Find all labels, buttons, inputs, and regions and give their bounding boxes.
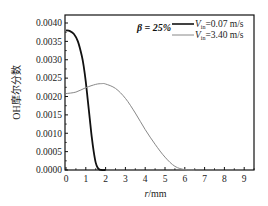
series-line-2 <box>66 83 195 170</box>
x-tick-label: 7 <box>202 174 207 184</box>
y-tick-label: 0.0015 <box>36 110 62 120</box>
x-tick-label: 9 <box>242 174 247 184</box>
x-tick-label: 1 <box>83 174 88 184</box>
x-tick-label: 5 <box>163 174 168 184</box>
y-axis-title: OH摩尔分数 <box>10 65 22 119</box>
chart: 01234567890.00000.00050.00100.00150.0020… <box>0 0 268 206</box>
plot-area: 01234567890.00000.00050.00100.00150.0020… <box>10 15 254 199</box>
x-axis-title: r/mm <box>144 188 166 199</box>
legend-label: Vin=3.40 m/s <box>195 30 244 41</box>
y-tick-label: 0.0025 <box>36 73 62 83</box>
series-line-1 <box>66 30 106 170</box>
x-tick-label: 4 <box>143 174 148 184</box>
y-tick-label: 0.0020 <box>36 92 62 102</box>
x-tick-label: 3 <box>123 174 128 184</box>
x-tick-label: 2 <box>103 174 108 184</box>
legend-label: Vin=0.07 m/s <box>195 19 244 30</box>
y-tick-label: 0.0040 <box>36 18 62 28</box>
y-tick-label: 0.0035 <box>36 37 62 47</box>
y-tick-label: 0.0030 <box>36 55 62 65</box>
x-tick-label: 8 <box>222 174 227 184</box>
beta-annotation: β = 25% <box>136 22 171 33</box>
x-tick-label: 6 <box>182 174 187 184</box>
x-tick-label: 0 <box>64 174 69 184</box>
y-tick-label: 0.0010 <box>36 129 62 139</box>
y-tick-label: 0.0005 <box>36 147 62 157</box>
y-tick-label: 0.0000 <box>36 165 62 175</box>
